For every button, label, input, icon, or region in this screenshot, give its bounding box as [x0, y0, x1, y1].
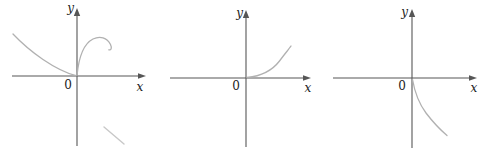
curve-falling — [413, 80, 448, 136]
y-axis-arrow-icon — [74, 8, 80, 16]
panel-1-plot — [0, 0, 162, 156]
three-axes-figure: y x 0 y x 0 y x 0 — [0, 0, 486, 156]
stray-mark — [104, 127, 124, 144]
origin-label: 0 — [392, 80, 406, 92]
x-axis-label: x — [468, 82, 480, 94]
panel-1: y x 0 — [0, 0, 162, 156]
y-axis-label: y — [64, 2, 74, 14]
x-axis-arrow-icon — [303, 75, 311, 81]
panel-2-plot — [162, 0, 324, 156]
y-axis-label: y — [398, 6, 408, 18]
panel-2: y x 0 — [162, 0, 324, 156]
x-axis-label: x — [134, 81, 146, 93]
y-axis-label: y — [233, 7, 243, 19]
y-axis-arrow-icon — [243, 10, 249, 18]
x-axis-arrow-icon — [138, 73, 146, 79]
origin-label: 0 — [58, 79, 72, 91]
x-axis-label: x — [302, 82, 314, 94]
panel-3-plot — [324, 0, 486, 156]
panel-3: y x 0 — [324, 0, 486, 156]
x-axis-arrow-icon — [469, 75, 477, 81]
curve-exponential — [247, 46, 291, 78]
curve-left-decreasing — [13, 34, 76, 76]
curve-right-hook — [77, 37, 111, 75]
y-axis-arrow-icon — [409, 9, 415, 17]
origin-label: 0 — [226, 80, 240, 92]
